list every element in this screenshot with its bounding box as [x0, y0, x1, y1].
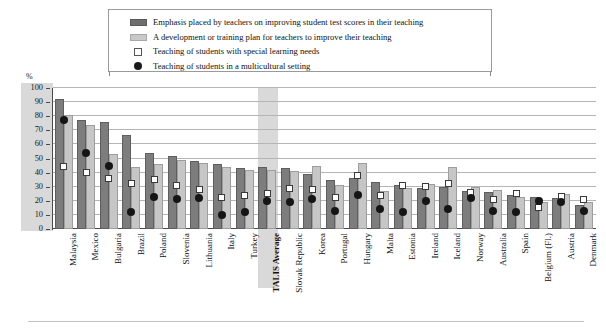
marker-special-learning-needs[interactable] — [535, 204, 542, 211]
marker-multicultural-setting[interactable] — [150, 193, 158, 201]
marker-multicultural-setting[interactable] — [241, 208, 249, 216]
marker-special-learning-needs[interactable] — [196, 186, 203, 193]
marker-special-learning-needs[interactable] — [445, 180, 452, 187]
marker-multicultural-setting[interactable] — [263, 197, 271, 205]
x-axis-label: Bulgaria — [113, 233, 123, 264]
bar-group[interactable] — [281, 88, 301, 229]
bar-group[interactable] — [303, 88, 323, 229]
bar-group[interactable] — [507, 88, 527, 229]
bar-group[interactable] — [122, 88, 142, 229]
marker-special-learning-needs[interactable] — [128, 180, 135, 187]
marker-special-learning-needs[interactable] — [332, 194, 339, 201]
x-axis-label: Norway — [475, 233, 485, 262]
marker-multicultural-setting[interactable] — [60, 116, 68, 124]
marker-multicultural-setting[interactable] — [218, 211, 226, 219]
marker-special-learning-needs[interactable] — [490, 196, 497, 203]
x-axis-category-labels: MalaysiaMexicoBulgariaBrazilPolandSloven… — [53, 233, 596, 313]
marker-special-learning-needs[interactable] — [513, 190, 520, 197]
bar-group[interactable] — [100, 88, 120, 229]
y-axis-tick — [46, 215, 50, 216]
bar-emphasis-test-scores[interactable] — [417, 188, 426, 229]
marker-special-learning-needs[interactable] — [241, 192, 248, 199]
bar-emphasis-test-scores[interactable] — [349, 178, 358, 229]
bar-development-plan[interactable] — [131, 167, 140, 229]
y-axis-tick — [46, 173, 50, 174]
marker-special-learning-needs[interactable] — [151, 176, 158, 183]
bar-group[interactable] — [77, 88, 97, 229]
bar-group[interactable] — [190, 88, 210, 229]
y-axis-tick-label: 100 — [19, 83, 43, 92]
bar-group[interactable] — [55, 88, 75, 229]
bar-group[interactable] — [326, 88, 346, 229]
marker-multicultural-setting[interactable] — [535, 197, 543, 205]
y-axis-tick — [46, 102, 50, 103]
x-axis-label: TALIS Average — [271, 233, 281, 292]
x-axis-label: Australia — [498, 233, 508, 266]
bar-group[interactable] — [439, 88, 459, 229]
marker-special-learning-needs[interactable] — [580, 196, 587, 203]
legend-tick-left — [109, 71, 110, 76]
marker-special-learning-needs[interactable] — [60, 163, 67, 170]
bar-development-plan[interactable] — [448, 167, 457, 229]
y-axis-tick-label: 70 — [19, 125, 43, 134]
y-axis-tick — [46, 88, 50, 89]
marker-special-learning-needs[interactable] — [105, 175, 112, 182]
bar-group[interactable] — [258, 88, 278, 229]
bar-group[interactable] — [145, 88, 165, 229]
marker-multicultural-setting[interactable] — [467, 194, 475, 202]
marker-multicultural-setting[interactable] — [399, 208, 407, 216]
black-dot-marker-icon — [123, 62, 153, 70]
x-axis-label: Turkey — [249, 233, 259, 259]
bar-group[interactable] — [575, 88, 595, 229]
bar-group[interactable] — [349, 88, 369, 229]
x-axis-label: Mexico — [90, 233, 100, 261]
marker-special-learning-needs[interactable] — [354, 172, 361, 179]
bar-group[interactable] — [168, 88, 188, 229]
x-axis-label: Iceland — [452, 233, 462, 259]
bar-emphasis-test-scores[interactable] — [326, 180, 335, 229]
marker-special-learning-needs[interactable] — [309, 186, 316, 193]
bar-emphasis-test-scores[interactable] — [236, 168, 245, 229]
bar-group[interactable] — [462, 88, 482, 229]
light-bar-swatch-icon — [123, 34, 153, 41]
bar-group[interactable] — [530, 88, 550, 229]
y-axis-tick — [46, 130, 50, 131]
bar-development-plan[interactable] — [64, 115, 73, 229]
bar-group[interactable] — [213, 88, 233, 229]
x-axis-label: Belgium (Fl.) — [543, 233, 553, 282]
marker-special-learning-needs[interactable] — [399, 182, 406, 189]
bar-group[interactable] — [484, 88, 504, 229]
bar-group[interactable] — [417, 88, 437, 229]
bar-group[interactable] — [371, 88, 391, 229]
legend-item: Teaching of students with special learni… — [123, 45, 491, 58]
bar-development-plan[interactable] — [86, 125, 95, 229]
y-axis-tick-label: 40 — [19, 168, 43, 177]
bottom-divider — [28, 321, 584, 322]
bar-group[interactable] — [236, 88, 256, 229]
y-axis-tick-label: 20 — [19, 196, 43, 205]
marker-multicultural-setting[interactable] — [580, 207, 588, 215]
marker-multicultural-setting[interactable] — [286, 198, 294, 206]
y-axis-tick-label: 90 — [19, 97, 43, 106]
marker-special-learning-needs[interactable] — [218, 194, 225, 201]
x-axis-label: Portugal — [339, 233, 349, 264]
bar-emphasis-test-scores[interactable] — [168, 156, 177, 229]
marker-special-learning-needs[interactable] — [286, 185, 293, 192]
dark-bar-swatch-icon — [123, 19, 153, 26]
bar-emphasis-test-scores[interactable] — [145, 153, 154, 229]
marker-special-learning-needs[interactable] — [173, 182, 180, 189]
marker-special-learning-needs[interactable] — [422, 183, 429, 190]
x-axis-label: Spain — [520, 233, 530, 254]
bar-development-plan[interactable] — [426, 184, 435, 229]
bar-development-plan[interactable] — [245, 170, 254, 229]
bar-group[interactable] — [552, 88, 572, 229]
bar-group[interactable] — [394, 88, 414, 229]
marker-multicultural-setting[interactable] — [422, 197, 430, 205]
marker-special-learning-needs[interactable] — [377, 192, 384, 199]
marker-multicultural-setting[interactable] — [82, 149, 90, 157]
x-axis-label: Lithuania — [204, 233, 214, 268]
marker-multicultural-setting[interactable] — [354, 191, 362, 199]
marker-multicultural-setting[interactable] — [105, 162, 113, 170]
marker-multicultural-setting[interactable] — [331, 207, 339, 215]
marker-special-learning-needs[interactable] — [83, 169, 90, 176]
